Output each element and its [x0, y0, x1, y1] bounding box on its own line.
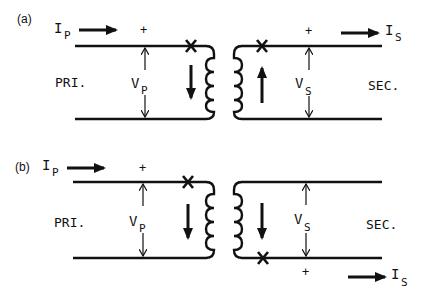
secondary-side-label: SEC. — [366, 217, 397, 232]
svg-text:V: V — [295, 75, 304, 91]
secondary-voltage-label: V S — [294, 211, 311, 234]
svg-text:I: I — [391, 266, 399, 282]
svg-text:I: I — [42, 157, 50, 173]
primary-voltage-label: V P — [129, 213, 146, 235]
secondary-coil — [234, 46, 242, 119]
primary-voltage-label: V P — [131, 75, 148, 97]
secondary-voltage-label: V S — [295, 75, 312, 98]
svg-text:S: S — [401, 276, 408, 289]
svg-text:P: P — [141, 84, 148, 97]
svg-text:V: V — [294, 211, 303, 227]
svg-text:P: P — [64, 29, 71, 42]
svg-text:I: I — [54, 20, 62, 36]
primary-side-label: PRI. — [55, 75, 86, 90]
primary-current-label: I P — [42, 157, 59, 179]
secondary-plus-sign: + — [305, 24, 312, 38]
primary-coil — [206, 182, 214, 258]
secondary-current-label: I S — [385, 22, 402, 44]
svg-text:S: S — [304, 221, 311, 234]
primary-current-label: I P — [54, 20, 71, 42]
svg-text:S: S — [395, 31, 402, 44]
svg-text:V: V — [129, 213, 138, 229]
panel-label: (b) — [15, 160, 30, 174]
secondary-plus-sign: + — [302, 265, 309, 279]
svg-text:S: S — [305, 85, 312, 98]
svg-text:P: P — [52, 166, 59, 179]
secondary-side-label: SEC. — [368, 78, 399, 93]
svg-text:I: I — [385, 22, 393, 38]
panel-label: (a) — [17, 12, 32, 26]
panel-a: (a) I P + V P PRI. — [17, 12, 402, 119]
svg-text:V: V — [131, 75, 140, 91]
secondary-current-label: I S — [391, 266, 408, 289]
primary-plus-sign: + — [140, 23, 147, 37]
panel-b: (b) I P + V P PRI. V S — [15, 157, 408, 289]
primary-side-label: PRI. — [54, 215, 85, 230]
primary-coil — [206, 46, 214, 119]
transformer-diagram: (a) I P + V P PRI. — [0, 0, 426, 296]
secondary-coil — [234, 182, 242, 258]
primary-plus-sign: + — [139, 161, 146, 175]
svg-text:P: P — [139, 222, 146, 235]
